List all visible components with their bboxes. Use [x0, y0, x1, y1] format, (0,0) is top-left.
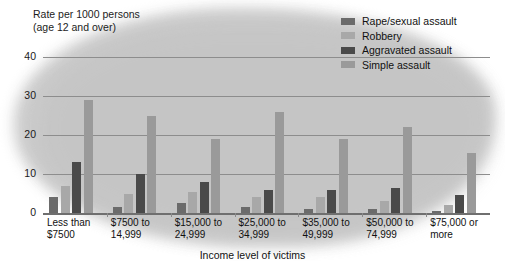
x-axis-category-label: $75,000 ormore [430, 217, 478, 241]
bar [211, 139, 220, 213]
bar [368, 209, 377, 213]
bar [49, 197, 58, 213]
x-axis-category-label: $15,000 to24,999 [175, 217, 222, 241]
x-axis-line [43, 213, 490, 215]
bar [200, 182, 209, 213]
bar [188, 192, 197, 213]
x-axis-category-label-line2: 24,999 [175, 229, 222, 241]
chart-legend: Rape/sexual assaultRobberyAggravated ass… [341, 14, 457, 72]
legend-item: Aggravated assault [341, 43, 457, 58]
bar [177, 203, 186, 213]
legend-item-label: Robbery [362, 30, 402, 42]
x-axis-category-label: $35,000 to49,999 [302, 217, 349, 241]
bar [84, 100, 93, 213]
bar [136, 174, 145, 213]
legend-item-label: Aggravated assault [362, 44, 452, 56]
y-axis-title-line2: (age 12 and over) [33, 21, 116, 33]
bar [124, 194, 133, 214]
bar [316, 197, 325, 213]
legend-item: Robbery [341, 29, 457, 44]
x-axis-title: Income level of victims [0, 249, 505, 261]
bar [264, 190, 273, 213]
plot-area: 010203040 [43, 57, 490, 213]
x-axis-category-label: $25,000 to34,999 [239, 217, 286, 241]
legend-item-label: Simple assault [362, 59, 430, 71]
bar-group [362, 57, 426, 213]
x-axis-category-label-line2: 14,999 [111, 229, 150, 241]
bar [380, 201, 389, 213]
chart-root: Rate per 1000 persons(age 12 and over) 0… [0, 0, 505, 267]
legend-swatch-icon [341, 61, 355, 68]
y-axis-tick-label: 40 [12, 50, 36, 62]
bar [432, 211, 441, 213]
x-axis-category-label-line1: Less than [47, 217, 90, 229]
bar [241, 207, 250, 213]
x-axis-category-label-line1: $25,000 to [239, 217, 286, 229]
legend-swatch-icon [341, 32, 355, 39]
bar-group [235, 57, 299, 213]
x-axis-category-label: $50,000 to74,999 [366, 217, 413, 241]
x-axis-category-label-line1: $50,000 to [366, 217, 413, 229]
x-axis-category-label-line1: $15,000 to [175, 217, 222, 229]
y-axis-tick-label: 10 [12, 167, 36, 179]
bar [72, 162, 81, 213]
bar [339, 139, 348, 213]
y-axis-title-line1: Rate per 1000 persons [33, 8, 140, 20]
x-axis-category-label-line2: 74,999 [366, 229, 413, 241]
x-axis-category-label: Less than$7500 [47, 217, 90, 241]
x-axis-category-label-line1: $35,000 to [302, 217, 349, 229]
bar [113, 207, 122, 213]
bar [147, 116, 156, 214]
bar-group [298, 57, 362, 213]
bar [252, 197, 261, 213]
x-axis-category-label-line2: $7500 [47, 229, 90, 241]
y-axis-tick-label: 20 [12, 128, 36, 140]
legend-item: Rape/sexual assault [341, 14, 457, 29]
bar [275, 112, 284, 213]
legend-item: Simple assault [341, 58, 457, 73]
y-axis-tick-label: 30 [12, 89, 36, 101]
bar-group [171, 57, 235, 213]
bar [61, 186, 70, 213]
bar [391, 188, 400, 213]
x-axis-category-label: $7500 to14,999 [111, 217, 150, 241]
x-axis-category-label-line1: $75,000 or [430, 217, 478, 229]
bar [304, 209, 313, 213]
legend-swatch-icon [341, 47, 355, 54]
bar [444, 205, 453, 213]
x-axis-labels: Less than$7500$7500 to14,999$15,000 to24… [43, 217, 490, 247]
legend-swatch-icon [341, 18, 355, 25]
bar [467, 153, 476, 213]
bar-group [107, 57, 171, 213]
y-axis-title: Rate per 1000 persons(age 12 and over) [33, 8, 140, 33]
x-axis-category-label-line2: 34,999 [239, 229, 286, 241]
bar [403, 127, 412, 213]
x-axis-category-label-line2: 49,999 [302, 229, 349, 241]
x-axis-category-label-line2: more [430, 229, 478, 241]
bar [455, 195, 464, 213]
x-axis-category-label-line1: $7500 to [111, 217, 150, 229]
legend-item-label: Rape/sexual assault [362, 15, 457, 27]
bar-group [426, 57, 490, 213]
bar-group [43, 57, 107, 213]
y-axis-tick-label: 0 [12, 206, 36, 218]
bar [327, 190, 336, 213]
